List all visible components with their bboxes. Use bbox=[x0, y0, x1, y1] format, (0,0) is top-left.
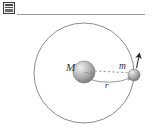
orbiting-sphere bbox=[128, 69, 140, 81]
document-thumbnail-icon bbox=[3, 2, 15, 14]
figure-page: M m r bbox=[0, 0, 152, 129]
header-bar bbox=[0, 0, 152, 17]
radius-label: r bbox=[105, 80, 109, 90]
velocity-arrow bbox=[137, 54, 140, 69]
orbiting-mass-label: m bbox=[119, 61, 126, 71]
orbit-diagram: M m r bbox=[0, 16, 152, 129]
radius-indicator-arc bbox=[88, 78, 131, 82]
orbit-diagram-svg: M m r bbox=[0, 16, 152, 129]
central-mass-label: M bbox=[65, 61, 76, 73]
horizontal-rule bbox=[17, 14, 145, 15]
